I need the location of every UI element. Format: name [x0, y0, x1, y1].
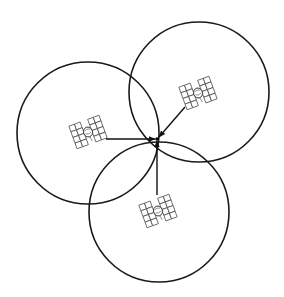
position-fix-point [155, 137, 159, 141]
trilateration-diagram [0, 0, 284, 297]
